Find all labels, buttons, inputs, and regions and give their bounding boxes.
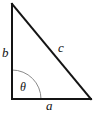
vertical-leg-label-b: b (2, 46, 9, 59)
hypotenuse-label-c: c (58, 41, 64, 54)
right-triangle-figure: b c a θ (0, 0, 98, 116)
horizontal-leg-label-a: a (46, 99, 53, 112)
angle-label-theta: θ (20, 81, 26, 93)
